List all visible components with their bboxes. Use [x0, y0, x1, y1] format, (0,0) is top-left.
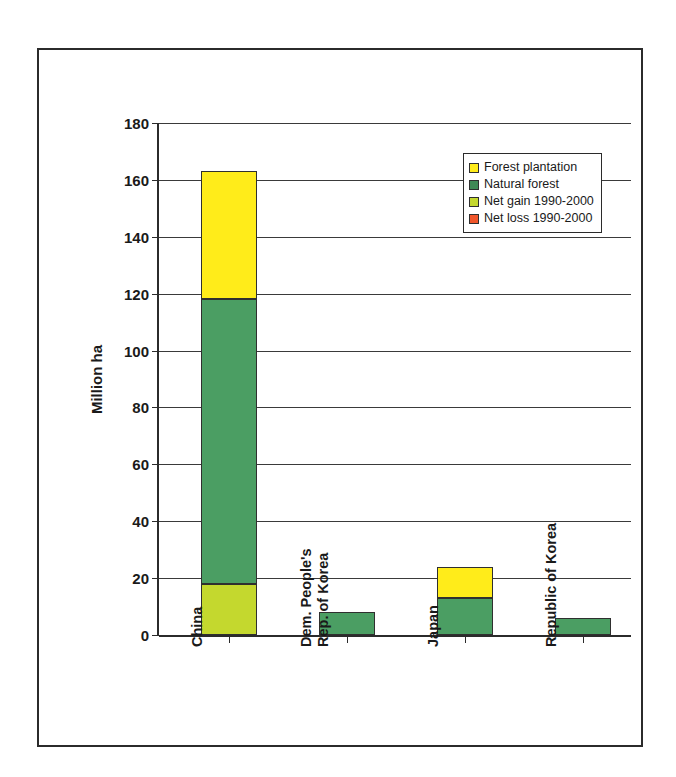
- legend-label: Net loss 1990-2000: [484, 212, 592, 225]
- bar-segment: [201, 171, 257, 299]
- bar-segment: [555, 618, 611, 635]
- y-tick-label-160: 160: [124, 172, 149, 187]
- y-tick-0: [152, 635, 159, 636]
- legend-swatch-icon: [469, 163, 479, 173]
- y-tick-label-60: 60: [132, 457, 149, 472]
- y-tick-label-120: 120: [124, 286, 149, 301]
- chart-legend: Forest plantationNatural forestNet gain …: [463, 153, 602, 233]
- legend-item: Forest plantation: [469, 159, 594, 176]
- y-tick-label-180: 180: [124, 116, 149, 131]
- y-tick-20: [152, 578, 159, 579]
- bar-segment: [437, 567, 493, 598]
- legend-swatch-icon: [469, 180, 479, 190]
- bar-segment: [201, 299, 257, 583]
- y-tick-120: [152, 294, 159, 295]
- x-tick-3: [583, 635, 584, 643]
- y-axis-title-text: Million ha: [89, 344, 106, 413]
- legend-swatch-icon: [469, 197, 479, 207]
- y-tick-80: [152, 407, 159, 408]
- y-tick-label-20: 20: [132, 571, 149, 586]
- legend-item: Net gain 1990-2000: [469, 193, 594, 210]
- bar-group: [201, 123, 257, 635]
- y-tick-180: [152, 123, 159, 124]
- y-tick-label-100: 100: [124, 343, 149, 358]
- category-label-line: Republic of Korea: [543, 497, 560, 648]
- y-tick-label-0: 0: [141, 628, 149, 643]
- y-axis-title: Million ha: [86, 123, 108, 635]
- y-tick-label-140: 140: [124, 229, 149, 244]
- y-tick-140: [152, 237, 159, 238]
- x-tick-0: [229, 635, 230, 643]
- category-label-line: Japan: [425, 497, 442, 648]
- legend-item: Natural forest: [469, 176, 594, 193]
- category-label-line: Dem. People's: [298, 488, 315, 647]
- y-tick-160: [152, 180, 159, 181]
- y-tick-label-80: 80: [132, 400, 149, 415]
- y-tick-40: [152, 521, 159, 522]
- figure-frame: Million ha 020406080100120140160180 Chin…: [37, 48, 643, 747]
- y-tick-label-40: 40: [132, 514, 149, 529]
- y-tick-100: [152, 351, 159, 352]
- bar-segment: [437, 598, 493, 635]
- legend-label: Net gain 1990-2000: [484, 195, 594, 208]
- legend-label: Forest plantation: [484, 161, 577, 174]
- y-tick-60: [152, 464, 159, 465]
- legend-item: Net loss 1990-2000: [469, 210, 594, 227]
- legend-label: Natural forest: [484, 178, 559, 191]
- category-label-line: China: [189, 497, 206, 648]
- category-label-line: Rep. of Korea: [315, 488, 332, 647]
- legend-swatch-icon: [469, 214, 479, 224]
- category-label: Republic of Korea: [543, 647, 676, 665]
- x-tick-2: [465, 635, 466, 643]
- x-tick-1: [347, 635, 348, 643]
- bar-segment: [201, 584, 257, 635]
